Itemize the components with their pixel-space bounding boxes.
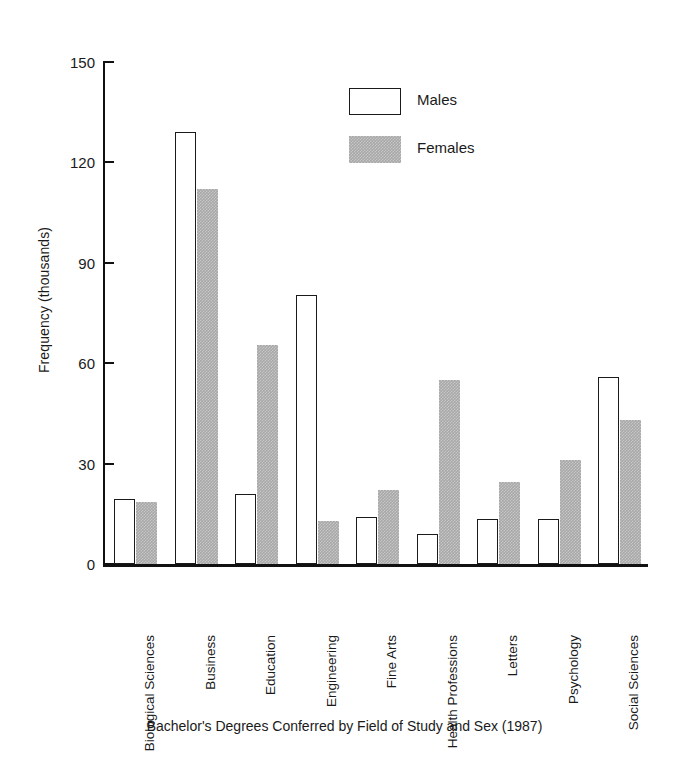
bar-male-1 bbox=[175, 132, 196, 564]
bar-male-2 bbox=[235, 494, 256, 564]
bar-group-business bbox=[175, 62, 218, 564]
bar-group-health-professions bbox=[417, 62, 460, 564]
y-axis-line bbox=[103, 62, 105, 564]
category-label-2: Education bbox=[263, 635, 278, 695]
category-label-7: Psychology bbox=[566, 635, 581, 704]
y-tick-30 bbox=[103, 463, 114, 465]
y-tick-90 bbox=[103, 262, 114, 264]
bar-male-3 bbox=[296, 295, 317, 564]
bar-female-8 bbox=[620, 420, 641, 564]
bar-female-5 bbox=[439, 380, 460, 564]
female-swatch-icon bbox=[349, 136, 401, 163]
bar-female-0 bbox=[136, 502, 157, 564]
bar-group-psychology bbox=[538, 62, 581, 564]
bar-group-social-sciences bbox=[598, 62, 641, 564]
bar-female-4 bbox=[378, 490, 399, 564]
male-swatch-icon bbox=[349, 88, 401, 115]
figure-caption: Bachelor's Degrees Conferred by Field of… bbox=[0, 718, 689, 734]
category-label-4: Fine Arts bbox=[384, 635, 399, 688]
category-label-6: Letters bbox=[505, 635, 520, 676]
y-tick-150 bbox=[103, 61, 114, 63]
y-tick-label-60: 60 bbox=[47, 355, 95, 372]
legend-label-females: Females bbox=[417, 139, 475, 156]
category-label-3: Engineering bbox=[324, 635, 339, 707]
bar-male-6 bbox=[477, 519, 498, 564]
bar-female-2 bbox=[257, 345, 278, 564]
bar-female-3 bbox=[318, 521, 339, 565]
y-tick-0 bbox=[103, 563, 114, 565]
bar-group-letters bbox=[477, 62, 520, 564]
y-tick-label-30: 30 bbox=[47, 455, 95, 472]
bar-male-4 bbox=[356, 517, 377, 564]
bar-female-1 bbox=[197, 189, 218, 564]
bar-male-8 bbox=[598, 377, 619, 564]
bar-male-7 bbox=[538, 519, 559, 564]
category-label-8: Social Sciences bbox=[626, 635, 641, 730]
x-axis-baseline bbox=[103, 564, 648, 567]
y-tick-label-120: 120 bbox=[47, 154, 95, 171]
y-tick-120 bbox=[103, 161, 114, 163]
y-tick-label-150: 150 bbox=[47, 54, 95, 71]
y-tick-label-0: 0 bbox=[47, 556, 95, 573]
bar-chart-figure: Frequency (thousands) 0306090120150 Biol… bbox=[0, 0, 689, 766]
y-tick-60 bbox=[103, 362, 114, 364]
category-label-1: Business bbox=[203, 635, 218, 690]
bar-group-education bbox=[235, 62, 278, 564]
bar-group-engineering bbox=[296, 62, 339, 564]
y-tick-label-90: 90 bbox=[47, 254, 95, 271]
y-axis-label: Frequency (thousands) bbox=[36, 190, 52, 410]
bar-female-6 bbox=[499, 482, 520, 564]
bar-male-0 bbox=[114, 499, 135, 564]
bar-male-5 bbox=[417, 534, 438, 564]
bar-female-7 bbox=[560, 460, 581, 564]
bar-group-biological-sciences bbox=[114, 62, 157, 564]
legend-label-males: Males bbox=[417, 91, 457, 108]
